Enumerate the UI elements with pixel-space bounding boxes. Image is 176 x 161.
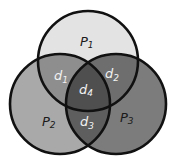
venn-diagram: P1 P2 P3 d1 d2 d3 d4 <box>0 0 176 161</box>
